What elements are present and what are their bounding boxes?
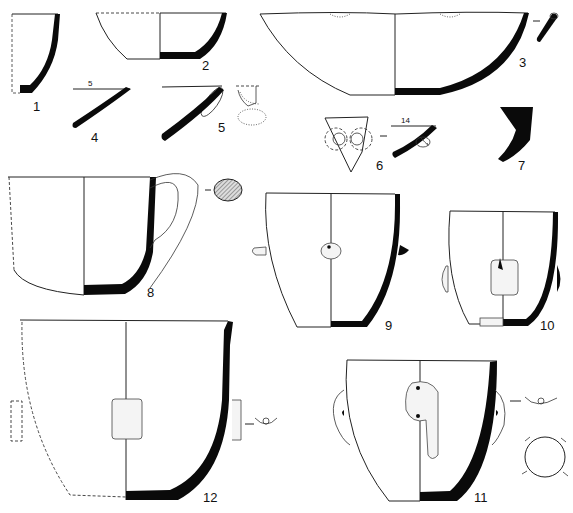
figure-label-11: 11 [474, 490, 488, 505]
figure-10: 10 [442, 211, 561, 333]
figure-label-1: 1 [33, 99, 40, 114]
figure-label-9: 9 [385, 318, 392, 333]
figure-3: 3 [260, 12, 558, 95]
figure-label-8: 8 [147, 285, 154, 300]
figure-label-7: 7 [518, 158, 525, 173]
figure-12: 12 [11, 320, 277, 505]
figure-label-3: 3 [519, 55, 526, 70]
figure-1: 1 [12, 14, 60, 114]
figure-label-2: 2 [202, 58, 209, 73]
figure-11: 11 [333, 360, 568, 505]
pottery-plate: 1 2 5 4 5 3 [0, 0, 573, 513]
figure-5: 5 [161, 85, 266, 141]
figure-label-6: 6 [376, 158, 383, 173]
figure-8: 8 [8, 174, 242, 300]
figure-4: 5 4 [72, 79, 131, 145]
figure-label-5: 5 [218, 120, 225, 135]
figure-2: 2 [96, 13, 227, 73]
figure-4-annotation: 5 [88, 79, 93, 88]
figure-6-annotation: 14 [401, 116, 410, 125]
figure-6: 14 6 [325, 116, 437, 173]
figure-label-12: 12 [203, 490, 217, 505]
figure-label-10: 10 [540, 318, 554, 333]
figure-label-4: 4 [91, 130, 98, 145]
figure-7: 7 [498, 107, 533, 173]
figure-9: 9 [252, 193, 409, 333]
